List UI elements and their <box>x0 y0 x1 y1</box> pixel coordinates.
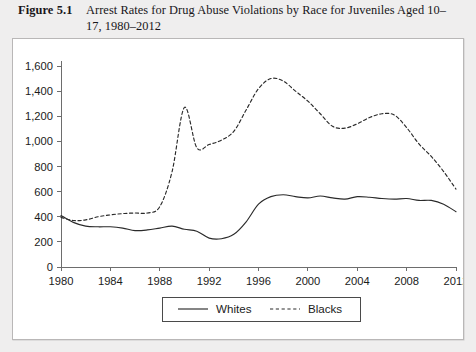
line-chart: 02004006008001,0001,2001,4001,600 198019… <box>13 39 463 339</box>
x-tick-label: 2008 <box>394 275 419 287</box>
x-tick-label: 1996 <box>246 275 271 287</box>
y-tick-label: 600 <box>34 186 53 198</box>
y-tick-label: 1,000 <box>25 135 53 147</box>
x-tick-label: 1988 <box>147 275 172 287</box>
legend-label-whites: Whites <box>216 302 252 315</box>
x-tick-label: 1992 <box>197 275 222 287</box>
y-tick-label: 800 <box>34 161 53 173</box>
x-tick-label: 1984 <box>98 275 123 287</box>
figure-number: Figure 5.1 <box>18 3 72 18</box>
figure-title-line-1: Arrest Rates for Drug Abuse Violations b… <box>86 3 395 17</box>
x-axis-ticks: 198019841988199219962000200420082012 <box>49 267 463 287</box>
figure-root: Figure 5.1 Arrest Rates for Drug Abuse V… <box>0 0 476 352</box>
x-tick-label: 1980 <box>49 275 74 287</box>
y-tick-label: 0 <box>47 261 53 273</box>
y-tick-label: 1,200 <box>25 110 53 122</box>
series-group <box>61 78 456 239</box>
series-line-whites <box>61 195 456 239</box>
y-tick-label: 1,600 <box>25 60 53 72</box>
chart-legend: WhitesBlacks <box>162 297 360 321</box>
x-tick-label: 2012 <box>444 275 463 287</box>
x-tick-label: 2000 <box>295 275 320 287</box>
y-tick-label: 400 <box>34 211 53 223</box>
x-tick-label: 2004 <box>345 275 370 287</box>
figure-caption-band: Figure 5.1 Arrest Rates for Drug Abuse V… <box>0 0 476 38</box>
y-tick-label: 1,400 <box>25 85 53 97</box>
y-tick-label: 200 <box>34 236 53 248</box>
legend-label-blacks: Blacks <box>308 302 342 315</box>
y-axis-ticks: 02004006008001,0001,2001,4001,600 <box>25 60 61 273</box>
chart-panel: 02004006008001,0001,2001,4001,600 198019… <box>12 38 464 340</box>
figure-title: Arrest Rates for Drug Abuse Violations b… <box>86 3 461 34</box>
